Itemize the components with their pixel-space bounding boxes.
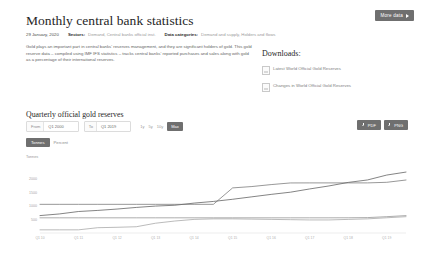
range-presets: 1y 5y 10y Max: [140, 122, 182, 131]
svg-text:Q1 16: Q1 16: [267, 236, 276, 240]
page-title: Monthly central bank statistics: [26, 13, 194, 29]
to-label: To: [85, 124, 96, 129]
download-link[interactable]: Changes in World Official Gold Reserves: [262, 83, 412, 93]
chart-plot-area[interactable]: Tonnes 500100015002000Q1 10Q1 11Q1 12Q1 …: [24, 155, 410, 245]
download-icon: [361, 123, 365, 127]
svg-text:Q1 17: Q1 17: [305, 236, 314, 240]
sectors-label: Sectors:: [68, 32, 85, 37]
svg-text:Q1 18: Q1 18: [344, 236, 353, 240]
categories-label: Data categories:: [165, 32, 198, 37]
svg-text:2000: 2000: [29, 177, 37, 181]
to-field[interactable]: To Q1 2019: [84, 121, 132, 132]
svg-text:Q1 19: Q1 19: [382, 236, 391, 240]
file-download-icon: [262, 66, 270, 75]
svg-text:1000: 1000: [29, 204, 37, 208]
svg-text:Q1 10: Q1 10: [35, 236, 44, 240]
export-png-button[interactable]: PNG: [384, 120, 408, 130]
download-link[interactable]: Latest World Official Gold Reserves: [262, 66, 412, 76]
intro-paragraph: Gold plays an important part in central …: [26, 44, 254, 64]
svg-text:1500: 1500: [29, 191, 37, 195]
arrow-right-icon: [406, 14, 409, 18]
from-value[interactable]: Q1 2000: [43, 122, 77, 131]
chart-title: Quarterly official gold reserves: [26, 110, 124, 119]
download-label: Changes in World Official Gold Reserves: [273, 83, 351, 90]
date-range-controls: From Q1 2000 To Q1 2019 1y 5y 10y Max: [26, 121, 183, 132]
range-10y[interactable]: 10y: [157, 124, 163, 129]
downloads-panel: Downloads: Latest World Official Gold Re…: [262, 49, 412, 92]
chart-svg: 500100015002000Q1 10Q1 11Q1 12Q1 13Q1 14…: [24, 155, 410, 245]
range-max[interactable]: Max: [167, 122, 183, 131]
unit-percent[interactable]: Percent: [54, 140, 68, 145]
svg-text:500: 500: [31, 218, 37, 222]
unit-toggle: Tonnes Percent: [26, 138, 68, 147]
download-icon: [388, 123, 392, 127]
svg-text:Q1 13: Q1 13: [151, 236, 160, 240]
downloads-heading: Downloads:: [262, 49, 412, 58]
unit-tonnes[interactable]: Tonnes: [26, 138, 50, 147]
svg-text:Q1 12: Q1 12: [112, 236, 121, 240]
svg-text:Q1 15: Q1 15: [228, 236, 237, 240]
to-value[interactable]: Q1 2019: [96, 122, 130, 131]
download-label: Latest World Official Gold Reserves: [273, 66, 341, 73]
svg-text:Q1 14: Q1 14: [189, 236, 198, 240]
more-data-button[interactable]: More data: [375, 10, 414, 21]
more-data-label: More data: [381, 13, 403, 18]
page-root: More data Monthly central bank statistic…: [0, 0, 422, 259]
categories-value[interactable]: Demand and supply, Holders and flows: [201, 32, 275, 37]
file-download-icon: [262, 83, 270, 92]
publish-date: 29 January, 2020: [26, 32, 59, 37]
export-buttons: PDF PNG: [357, 120, 408, 130]
export-pdf-label: PDF: [368, 123, 376, 128]
range-5y[interactable]: 5y: [149, 124, 153, 129]
svg-text:Q1 11: Q1 11: [74, 236, 83, 240]
from-field[interactable]: From Q1 2000: [26, 121, 79, 132]
from-label: From: [27, 124, 43, 129]
export-pdf-button[interactable]: PDF: [357, 120, 381, 130]
export-png-label: PNG: [394, 123, 403, 128]
article-meta: 29 January, 2020 Sectors: Demand, Centra…: [26, 32, 276, 37]
range-1y[interactable]: 1y: [140, 124, 144, 129]
sectors-value[interactable]: Demand, Central banks official inst.: [88, 32, 156, 37]
